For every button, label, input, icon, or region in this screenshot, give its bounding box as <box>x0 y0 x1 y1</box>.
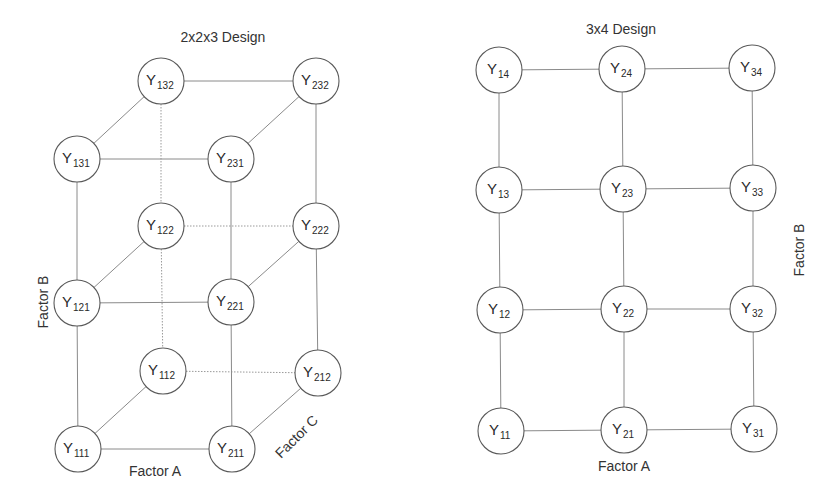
node-subscript: 111 <box>74 448 90 459</box>
node-subscript: 122 <box>157 225 174 236</box>
node-y212: Y212 <box>295 350 341 396</box>
node-y231: Y231 <box>208 136 254 182</box>
node-y22: Y22 <box>601 286 647 332</box>
node-subscript: 131 <box>73 158 90 169</box>
axis-label-factor-b: Factor B <box>791 224 807 277</box>
edge-231-232 <box>248 97 299 144</box>
node-y211: Y211 <box>209 426 255 472</box>
node-subscript: 32 <box>752 308 764 319</box>
edge-32-31 <box>753 332 754 406</box>
node-subscript: 212 <box>314 372 331 383</box>
diagram-3x4-design: 3x4 Design Y14Y24Y34Y13Y23Y33Y12Y22Y32Y1… <box>476 21 807 474</box>
node-y232: Y232 <box>293 58 339 104</box>
edges <box>77 81 318 449</box>
diagram-2x2x3-design: 2x2x3 Design Y132Y232Y131Y231Y122Y222Y12… <box>35 29 341 479</box>
node-y21: Y21 <box>601 407 647 453</box>
node-y34: Y34 <box>729 45 775 91</box>
node-y131: Y131 <box>54 136 100 182</box>
node-subscript: 13 <box>498 189 510 200</box>
edge-131-132 <box>94 97 144 144</box>
node-subscript: 222 <box>312 225 329 236</box>
node-subscript: 34 <box>751 67 763 78</box>
edge-222-212 <box>316 249 317 350</box>
edge-11-21 <box>524 430 601 431</box>
node-subscript: 12 <box>499 309 511 320</box>
diagram-title: 3x4 Design <box>586 21 656 37</box>
edge-13-23 <box>522 189 600 190</box>
node-y14: Y14 <box>476 47 522 93</box>
node-subscript: 33 <box>752 187 764 198</box>
edge-121-111 <box>77 326 78 426</box>
diagram-title: 2x2x3 Design <box>181 29 266 45</box>
node-y33: Y33 <box>730 165 776 211</box>
node-y122: Y122 <box>138 203 184 249</box>
edge-12-11 <box>500 333 501 408</box>
edge-122-112 <box>161 249 162 348</box>
edge-121-221 <box>100 302 208 303</box>
node-y132: Y132 <box>138 58 184 104</box>
node-subscript: 211 <box>228 448 244 459</box>
node-y121: Y121 <box>54 280 100 326</box>
node-subscript: 31 <box>753 428 765 439</box>
edge-23-22 <box>623 212 624 286</box>
edge-12-22 <box>523 309 601 310</box>
axis-label-factor-a: Factor A <box>598 458 651 474</box>
edges <box>499 68 754 431</box>
node-y11: Y11 <box>478 408 524 454</box>
edge-14-24 <box>522 69 599 70</box>
node-subscript: 232 <box>312 80 329 91</box>
node-y112: Y112 <box>140 348 186 394</box>
edge-24-23 <box>622 92 623 166</box>
node-subscript: 21 <box>623 429 635 440</box>
node-y13: Y13 <box>476 167 522 213</box>
node-subscript: 112 <box>159 370 175 381</box>
node-y111: Y111 <box>55 426 101 472</box>
node-y24: Y24 <box>599 46 645 92</box>
node-subscript: 22 <box>623 308 635 319</box>
node-y221: Y221 <box>208 279 254 325</box>
node-subscript: 24 <box>621 68 633 79</box>
node-subscript: 221 <box>227 301 244 312</box>
node-subscript: 11 <box>500 430 511 441</box>
factorial-design-diagrams: 2x2x3 Design Y132Y232Y131Y231Y122Y222Y12… <box>0 0 834 499</box>
node-subscript: 231 <box>227 158 244 169</box>
edge-221-211 <box>231 325 232 426</box>
node-y32: Y32 <box>730 286 776 332</box>
edge-211-212 <box>249 388 301 434</box>
edge-111-112 <box>95 387 146 434</box>
edge-13-12 <box>499 213 500 287</box>
node-subscript: 132 <box>157 80 174 91</box>
edge-34-33 <box>752 91 753 165</box>
node-subscript: 121 <box>73 302 90 313</box>
nodes: Y132Y232Y131Y231Y122Y222Y121Y221Y112Y212… <box>54 58 341 472</box>
edge-112-212 <box>186 371 295 372</box>
axis-label-factor-b: Factor B <box>35 276 51 329</box>
edge-23-33 <box>646 188 730 189</box>
node-subscript: 14 <box>498 69 510 80</box>
edge-121-122 <box>94 242 144 288</box>
node-y12: Y12 <box>477 287 523 333</box>
edge-221-222 <box>248 241 299 286</box>
node-subscript: 23 <box>622 188 634 199</box>
axis-label-factor-c: Factor C <box>272 412 321 461</box>
edge-24-34 <box>645 68 729 69</box>
nodes: Y14Y24Y34Y13Y23Y33Y12Y22Y32Y11Y21Y31 <box>476 45 777 454</box>
axis-label-factor-a: Factor A <box>129 463 182 479</box>
node-y23: Y23 <box>600 166 646 212</box>
edge-21-31 <box>647 429 731 430</box>
node-y222: Y222 <box>293 203 339 249</box>
node-y31: Y31 <box>731 406 777 452</box>
